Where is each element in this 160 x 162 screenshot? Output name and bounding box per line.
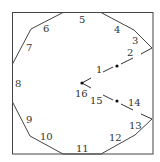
lower-ray-vertex: [115, 99, 118, 102]
label-6: 6: [43, 23, 49, 34]
edge-15-seg: [103, 95, 113, 100]
label-5: 5: [79, 14, 85, 25]
label-9: 9: [26, 114, 32, 125]
label-13: 13: [129, 120, 142, 131]
label-11: 11: [76, 143, 89, 154]
label-2: 2: [127, 47, 133, 58]
edge-2-seg-b: [141, 48, 152, 54]
diagram-canvas: 1 2 3 4 5 6 7 8 9 10 11 12 13 14 15 16: [0, 0, 160, 162]
label-7: 7: [26, 42, 32, 53]
label-3: 3: [132, 35, 138, 46]
edge-1-seg-b: [103, 67, 113, 72]
edge-14-seg-b: [141, 114, 152, 119]
label-8: 8: [15, 78, 21, 89]
label-15: 15: [90, 95, 103, 106]
label-1: 1: [96, 64, 102, 75]
polygon-diagram: 1 2 3 4 5 6 7 8 9 10 11 12 13 14 15 16: [0, 0, 160, 162]
upper-ray-vertex: [115, 64, 118, 67]
label-10: 10: [40, 131, 53, 142]
edge-2-seg-a: [121, 58, 133, 64]
label-4: 4: [114, 24, 120, 35]
label-12: 12: [109, 132, 122, 143]
label-14: 14: [128, 97, 141, 108]
label-16: 16: [75, 88, 88, 99]
center-vertex: [80, 81, 83, 84]
